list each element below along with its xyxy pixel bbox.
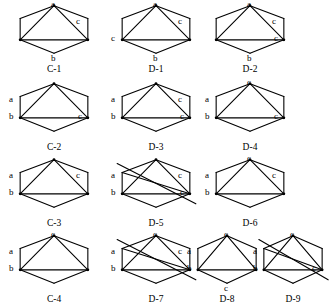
vertex-label-upper_right: c	[272, 171, 276, 180]
vertex-label-mid_right: c	[312, 264, 316, 273]
diagram-d-2: accbD-2	[214, 4, 286, 82]
vertex-label-bottom: b	[51, 54, 56, 63]
vertex-label-top: a	[247, 0, 251, 9]
vertex-label-bottom: b	[247, 54, 252, 63]
vertex-label-mid_right: c	[180, 188, 184, 197]
vertex-label-upper_left: a	[253, 247, 257, 256]
vertex-label-upper_left: a	[9, 247, 13, 256]
hexagon-svg	[113, 151, 199, 221]
vertex-label-mid_right: c	[274, 34, 278, 43]
vertex-label-top: c	[51, 230, 55, 239]
vertex-label-mid_right: c	[180, 112, 184, 121]
diagram-caption: D-2	[214, 64, 286, 74]
diagram-c-1: acbC-1	[18, 4, 90, 82]
vertex-label-mid_left: b	[9, 112, 14, 121]
vertex-label-mid_left: b	[253, 264, 258, 273]
hexagon-svg	[11, 75, 97, 145]
vertex-label-mid_right: c	[78, 112, 82, 121]
vertex-label-top: c	[247, 154, 251, 163]
diagram-caption: C-4	[18, 294, 90, 302]
diagram-d-7: cacbD-7	[120, 234, 192, 302]
vertex-label-mid_left: b	[205, 188, 210, 197]
vertex-label-top: c	[290, 230, 294, 239]
vertex-label-top: a	[51, 0, 55, 9]
vertex-label-top: c	[247, 78, 251, 87]
vertex-label-upper_left: a	[111, 247, 115, 256]
hexagon-svg	[113, 75, 199, 145]
vertex-label-mid_left: b	[9, 264, 14, 273]
diagram-caption: D-9	[262, 294, 324, 302]
diagram-d-8: cabcD-8	[196, 234, 258, 302]
diagram-c-2: abcC-2	[18, 82, 90, 160]
vertex-label-upper_right: c	[178, 95, 182, 104]
diagram-c-4: cabC-4	[18, 234, 90, 302]
vertex-label-bottom: c	[224, 284, 228, 293]
vertex-label-upper_right: c	[76, 171, 80, 180]
diagram-caption: C-1	[18, 64, 90, 74]
vertex-label-upper_right: c	[178, 171, 182, 180]
vertex-label-upper_left: a	[9, 95, 13, 104]
vertex-label-upper_right: c	[272, 17, 276, 26]
vertex-label-top: a	[153, 0, 157, 9]
hexagon-svg	[11, 151, 97, 221]
vertex-label-upper_left: a	[111, 95, 115, 104]
diagram-caption: D-1	[120, 64, 192, 74]
diagram-d-9: cabcD-9	[262, 234, 324, 302]
diagram-d-4: cabcD-4	[214, 82, 286, 160]
vertex-label-upper_left: a	[187, 247, 191, 256]
vertex-label-upper_right: c	[76, 17, 80, 26]
diagram-caption: D-8	[196, 294, 258, 302]
vertex-label-mid_left: b	[9, 188, 14, 197]
vertex-label-mid_left: b	[111, 264, 116, 273]
diagram-d-1: accbD-1	[120, 4, 192, 82]
vertex-label-top: c	[224, 230, 228, 239]
vertex-label-mid_left: b	[205, 112, 210, 121]
vertex-label-upper_left: a	[111, 171, 115, 180]
vertex-label-mid_left: c	[111, 34, 115, 43]
vertex-label-mid_left: b	[187, 264, 192, 273]
vertex-label-upper_right: c	[178, 17, 182, 26]
vertex-label-top: c	[153, 230, 157, 239]
vertex-label-bottom: b	[153, 54, 158, 63]
vertex-label-upper_left: a	[9, 171, 13, 180]
vertex-label-mid_left: b	[111, 188, 116, 197]
diagram-d-6: cacbD-6	[214, 158, 286, 236]
diagram-c-3: acbC-3	[18, 158, 90, 236]
vertex-label-upper_left: a	[205, 171, 209, 180]
diagram-d-3: acbcD-3	[120, 82, 192, 160]
vertex-label-mid_left: b	[111, 112, 116, 121]
vertex-label-mid_right: c	[274, 112, 278, 121]
vertex-label-upper_left: a	[205, 95, 209, 104]
diagram-d-5: acbcD-5	[120, 158, 192, 236]
vertex-label-upper_right: c	[178, 247, 182, 256]
diagram-caption: D-7	[120, 294, 192, 302]
